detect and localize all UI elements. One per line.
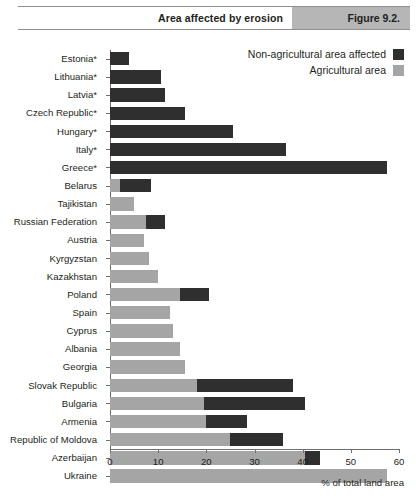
category-axis-labels: Estonia*Lithuania*Latvia*Czech Republic*…	[0, 50, 104, 485]
category-label: Republic of Moldova	[0, 431, 104, 449]
bar-segment-agricultural	[110, 215, 146, 228]
bar-segment-non-agricultural	[230, 433, 283, 446]
bar-segment-non-agricultural	[146, 215, 165, 228]
bar-row	[110, 159, 406, 177]
bar-segment-agricultural	[110, 288, 180, 301]
x-axis-tick	[303, 449, 304, 453]
bar-row	[110, 413, 406, 431]
bar-row	[110, 268, 406, 286]
bar-segment-agricultural	[110, 360, 185, 373]
category-label: Italy*	[0, 141, 104, 159]
bar-segment-agricultural	[110, 397, 204, 410]
x-axis-tick-label: 20	[201, 456, 212, 467]
bar-segment-non-agricultural	[120, 179, 151, 192]
stacked-bar	[110, 433, 283, 446]
bar-segment-non-agricultural	[206, 415, 247, 428]
x-axis-tick-label: 60	[394, 456, 405, 467]
bar-row	[110, 304, 406, 322]
stacked-bar	[110, 161, 387, 174]
bar-segment-agricultural	[110, 379, 197, 392]
category-label: Georgia	[0, 358, 104, 376]
x-axis-tick	[110, 449, 111, 453]
x-axis-tick	[206, 449, 207, 453]
stacked-bar	[110, 70, 161, 83]
bar-row	[110, 250, 406, 268]
bar-segment-non-agricultural	[110, 52, 129, 65]
x-axis-tick-label: 0	[107, 456, 112, 467]
bar-segment-non-agricultural	[110, 107, 185, 120]
bar-row	[110, 213, 406, 231]
bar-row	[110, 286, 406, 304]
stacked-bar	[110, 88, 165, 101]
stacked-bar	[110, 288, 209, 301]
category-label: Greece*	[0, 159, 104, 177]
stacked-bar	[110, 125, 233, 138]
bar-row	[110, 86, 406, 104]
bar-segment-agricultural	[110, 324, 173, 337]
stacked-bar	[110, 52, 129, 65]
x-axis-tick-label: 30	[249, 456, 260, 467]
category-label: Armenia	[0, 413, 104, 431]
bar-segment-agricultural	[110, 306, 170, 319]
bar-row	[110, 395, 406, 413]
category-label: Lithuania*	[0, 68, 104, 86]
bar-segment-non-agricultural	[180, 288, 209, 301]
bar-row	[110, 358, 406, 376]
category-label: Spain	[0, 304, 104, 322]
bar-row	[110, 50, 406, 68]
category-label: Czech Republic*	[0, 104, 104, 122]
bar-segment-agricultural	[110, 179, 120, 192]
bar-row	[110, 377, 406, 395]
x-axis-tick-label: 10	[153, 456, 164, 467]
category-label: Cyprus	[0, 322, 104, 340]
category-label: Ukraine	[0, 467, 104, 485]
x-axis-tick	[351, 449, 352, 453]
bar-segment-non-agricultural	[110, 161, 387, 174]
stacked-bar	[110, 415, 247, 428]
stacked-bar	[110, 306, 170, 319]
stacked-bar	[110, 107, 185, 120]
bar-row	[110, 431, 406, 449]
x-axis-tick-label: 40	[297, 456, 308, 467]
bar-segment-agricultural	[110, 433, 230, 446]
bar-segment-non-agricultural	[110, 88, 165, 101]
stacked-bar	[110, 379, 293, 392]
stacked-bar	[110, 197, 134, 210]
stacked-bar	[110, 234, 144, 247]
stacked-bar	[110, 397, 305, 410]
stacked-bar	[110, 252, 149, 265]
x-axis-tick	[158, 449, 159, 453]
bar-segment-agricultural	[110, 197, 134, 210]
x-axis-tick-label: 50	[345, 456, 356, 467]
bar-row	[110, 340, 406, 358]
stacked-bar	[110, 360, 185, 373]
stacked-bar	[110, 215, 165, 228]
stacked-bar	[110, 179, 151, 192]
category-label: Austria	[0, 231, 104, 249]
bar-row	[110, 123, 406, 141]
bar-row	[110, 104, 406, 122]
bar-segment-agricultural	[110, 342, 180, 355]
stacked-bar	[110, 451, 320, 464]
bar-segment-non-agricultural	[110, 70, 161, 83]
x-axis-title: % of total land area	[321, 477, 404, 488]
bar-segment-agricultural	[110, 415, 206, 428]
bar-segment-non-agricultural	[110, 125, 233, 138]
category-label: Poland	[0, 286, 104, 304]
bar-row	[110, 177, 406, 195]
bars-container	[110, 50, 406, 449]
category-label: Bulgaria	[0, 395, 104, 413]
stacked-bar	[110, 342, 180, 355]
category-label: Azerbaijan	[0, 449, 104, 467]
category-label: Belarus	[0, 177, 104, 195]
bar-segment-agricultural	[110, 270, 158, 283]
bar-segment-non-agricultural	[110, 143, 286, 156]
bar-row	[110, 195, 406, 213]
category-label: Latvia*	[0, 86, 104, 104]
bar-segment-non-agricultural	[197, 379, 293, 392]
bar-row	[110, 141, 406, 159]
stacked-bar	[110, 324, 173, 337]
bar-row	[110, 231, 406, 249]
category-label: Estonia*	[0, 50, 104, 68]
bar-segment-agricultural	[110, 252, 149, 265]
